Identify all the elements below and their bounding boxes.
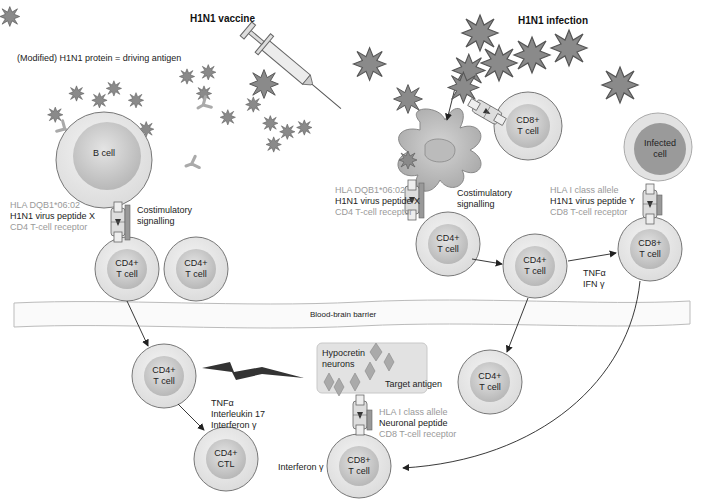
target-antigen-label: Target antigen bbox=[385, 379, 442, 390]
cd4-left-b-label: CD4+T cell bbox=[184, 258, 207, 280]
antigen-note: (Modified) H1N1 protein = driving antige… bbox=[17, 53, 181, 64]
costim-label-dc: Costimulatory signalling bbox=[457, 188, 512, 210]
cd4-left-a-label: CD4+T cell bbox=[115, 258, 138, 280]
cytokines-mid: TNFαIFN γ bbox=[583, 268, 606, 290]
hypocretin-neurons-label: Hypocretinneurons bbox=[322, 348, 365, 370]
cd4-dc-label: CD4+T cell bbox=[436, 233, 459, 255]
infection-viruses bbox=[353, 15, 638, 103]
b-cell-label: B cell bbox=[93, 148, 115, 159]
cd4-brain-right-label: CD4+T cell bbox=[478, 371, 501, 393]
receptor-label-left: HLA DQB1*06:02 H1N1 virus peptide X CD4 … bbox=[10, 200, 95, 233]
blood-brain-barrier-label: Blood-brain barrier bbox=[310, 309, 376, 320]
cytokine-cd8-brain: Interferon γ bbox=[278, 462, 324, 473]
dendritic-cell bbox=[398, 108, 481, 191]
cd4-brain-left-label: CD4+T cell bbox=[152, 365, 175, 387]
receptor-label-infected: HLA I class allele H1N1 virus peptide Y … bbox=[550, 185, 635, 218]
b-cell bbox=[56, 112, 152, 208]
cd4-ctl-label: CD4+CTL bbox=[214, 448, 237, 470]
cd4-mid-label: CD4+T cell bbox=[523, 255, 546, 277]
receptor-label-dc: HLA DQB1*06:02 H1N1 virus peptide X CD4 … bbox=[335, 185, 420, 218]
cytokines-ctl: TNFαInterleukin 17Interferon γ bbox=[211, 398, 265, 431]
cd8-top-label: CD8+T cell bbox=[516, 115, 539, 137]
receptor-label-brain: HLA I class allele Neuronal peptide CD8 … bbox=[379, 407, 456, 440]
lightning-bolt-icon bbox=[202, 362, 304, 380]
header-vaccine: H1N1 vaccine bbox=[190, 13, 255, 24]
cd8-right-label: CD8+T cell bbox=[638, 238, 661, 260]
diagram-canvas bbox=[0, 0, 705, 502]
header-infection: H1N1 infection bbox=[518, 15, 588, 26]
cd8-brain-label: CD8+T cell bbox=[347, 455, 370, 477]
infected-cell-label: Infectedcell bbox=[644, 138, 676, 160]
costim-label-left: Costimulatory signalling bbox=[137, 205, 192, 227]
